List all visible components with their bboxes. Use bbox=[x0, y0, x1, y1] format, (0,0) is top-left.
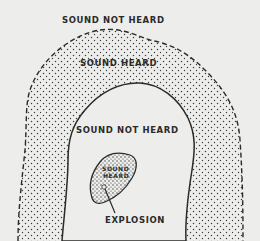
explosion-point-icon bbox=[102, 185, 106, 189]
label-core-heard-line2: HEARD bbox=[103, 172, 129, 179]
label-inner-not-heard: SOUND NOT HEARD bbox=[76, 125, 179, 135]
label-ring-heard: SOUND HEARD bbox=[80, 58, 157, 68]
label-outer-not-heard: SOUND NOT HEARD bbox=[62, 15, 165, 25]
label-explosion: EXPLOSION bbox=[105, 215, 165, 225]
sound-zones-diagram: SOUND NOT HEARD SOUND HEARD SOUND NOT HE… bbox=[0, 0, 260, 241]
label-core-heard-line1: SOUND bbox=[102, 165, 129, 172]
